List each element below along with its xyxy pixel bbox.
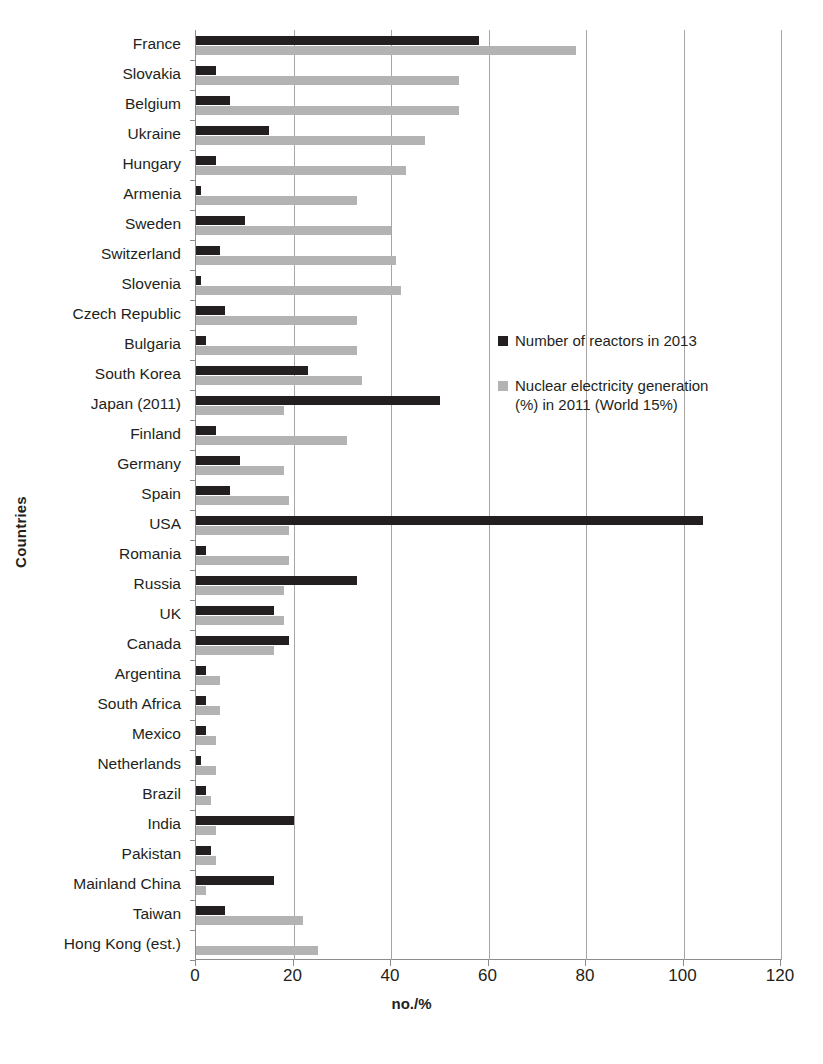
x-axis-title: no./% — [0, 995, 823, 1012]
y-axis-category-label: Hungary — [0, 156, 181, 172]
bar-reactors — [196, 546, 206, 555]
x-axis-tick — [488, 959, 489, 966]
bar-group — [196, 120, 781, 150]
bar-group — [196, 840, 781, 870]
bar-generation — [196, 436, 347, 445]
bar-generation — [196, 316, 357, 325]
y-axis-category-label: Romania — [0, 546, 181, 562]
bar-group — [196, 210, 781, 240]
bar-reactors — [196, 426, 216, 435]
bar-reactors — [196, 246, 220, 255]
bar-reactors — [196, 156, 216, 165]
bar-reactors — [196, 276, 201, 285]
bar-reactors — [196, 876, 274, 885]
y-axis-category-label: Argentina — [0, 666, 181, 682]
y-axis-category-label: Netherlands — [0, 756, 181, 772]
bar-generation — [196, 346, 357, 355]
bar-generation — [196, 46, 576, 55]
plot-area — [195, 30, 781, 960]
y-axis-category-label: South Korea — [0, 366, 181, 382]
bar-reactors — [196, 576, 357, 585]
bar-reactors — [196, 216, 245, 225]
x-axis-tick — [195, 959, 196, 966]
legend-swatch-light-icon — [498, 381, 508, 391]
bar-reactors — [196, 666, 206, 675]
bar-generation — [196, 496, 289, 505]
y-axis-category-label: Slovakia — [0, 66, 181, 82]
y-axis-category-label: France — [0, 36, 181, 52]
x-axis-tick-label: 80 — [576, 966, 595, 986]
y-axis-category-label: Slovenia — [0, 276, 181, 292]
bar-reactors — [196, 186, 201, 195]
bar-reactors — [196, 756, 201, 765]
bar-generation — [196, 136, 425, 145]
bar-generation — [196, 856, 216, 865]
bar-generation — [196, 766, 216, 775]
x-axis-tick-label: 60 — [478, 966, 497, 986]
bar-generation — [196, 706, 220, 715]
x-axis-tick — [293, 959, 294, 966]
y-axis-category-label: Germany — [0, 456, 181, 472]
y-axis-category-label: Hong Kong (est.) — [0, 936, 181, 952]
y-axis-category-label: Armenia — [0, 186, 181, 202]
legend-label: Number of reactors in 2013 — [515, 332, 697, 351]
y-axis-category-label: Brazil — [0, 786, 181, 802]
bar-reactors — [196, 336, 206, 345]
y-axis-category-label: Taiwan — [0, 906, 181, 922]
bar-group — [196, 930, 781, 960]
bar-reactors — [196, 126, 269, 135]
y-axis-category-label: USA — [0, 516, 181, 532]
gridline — [781, 30, 782, 960]
bar-generation — [196, 106, 459, 115]
legend-item: Nuclear electricity generation (%) in 20… — [498, 377, 708, 415]
x-axis-tick-label: 120 — [766, 966, 794, 986]
bar-reactors — [196, 96, 230, 105]
bar-generation — [196, 256, 396, 265]
bar-generation — [196, 226, 391, 235]
bar-generation — [196, 916, 303, 925]
y-axis-category-label: Ukraine — [0, 126, 181, 142]
bar-group — [196, 690, 781, 720]
bar-group — [196, 150, 781, 180]
bar-reactors — [196, 816, 294, 825]
y-axis-category-label: UK — [0, 606, 181, 622]
bar-reactors — [196, 396, 440, 405]
x-axis-tick-label: 20 — [283, 966, 302, 986]
bar-group — [196, 510, 781, 540]
y-axis-category-label: Czech Republic — [0, 306, 181, 322]
bar-generation — [196, 886, 206, 895]
bar-generation — [196, 166, 406, 175]
bar-generation — [196, 736, 216, 745]
bar-reactors — [196, 486, 230, 495]
bar-generation — [196, 796, 211, 805]
y-axis-category-label: Finland — [0, 426, 181, 442]
legend-label: Nuclear electricity generation (%) in 20… — [515, 377, 708, 415]
bar-generation — [196, 826, 216, 835]
bar-group — [196, 90, 781, 120]
y-axis-category-label: South Africa — [0, 696, 181, 712]
bar-group — [196, 240, 781, 270]
bar-group — [196, 660, 781, 690]
bar-reactors — [196, 606, 274, 615]
bar-reactors — [196, 786, 206, 795]
x-axis-tick — [390, 959, 391, 966]
bar-generation — [196, 556, 289, 565]
bar-group — [196, 450, 781, 480]
y-axis-category-label: Pakistan — [0, 846, 181, 862]
bar-reactors — [196, 516, 703, 525]
bar-group — [196, 180, 781, 210]
y-axis-category-label: Mexico — [0, 726, 181, 742]
bar-group — [196, 570, 781, 600]
y-axis-category-label: Belgium — [0, 96, 181, 112]
bar-group — [196, 750, 781, 780]
bar-generation — [196, 586, 284, 595]
bar-reactors — [196, 636, 289, 645]
bar-generation — [196, 376, 362, 385]
x-axis-tick — [585, 959, 586, 966]
bar-group — [196, 600, 781, 630]
y-axis-category-label: Canada — [0, 636, 181, 652]
bar-group — [196, 630, 781, 660]
bar-group — [196, 810, 781, 840]
y-axis-category-label: Switzerland — [0, 246, 181, 262]
bar-group — [196, 300, 781, 330]
